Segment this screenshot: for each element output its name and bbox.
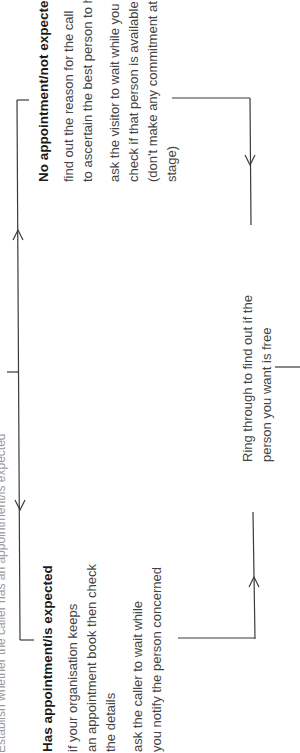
has-appointment-para2: ask the caller to wait whileyou notify t…: [128, 564, 166, 752]
no-appointment-para2: ask the visitor to wait while youcheck i…: [105, 0, 181, 182]
has-appointment-para1: if your organisation keepsan appointment…: [63, 564, 120, 752]
has-appointment-heading: Has appointment/is expected: [40, 564, 55, 752]
ring-through-block: Ring through to find out if theperson yo…: [238, 295, 276, 462]
has-appointment-block: Has appointment/is expected if your orga…: [40, 564, 166, 752]
no-appointment-para1: find out the reason for the callto ascer…: [59, 0, 97, 182]
top-heading-cut: Establish whether the caller has an appo…: [0, 433, 8, 753]
no-appointment-heading: No appointment/not expected: [36, 0, 51, 182]
no-appointment-block: No appointment/not expected find out the…: [36, 0, 181, 182]
